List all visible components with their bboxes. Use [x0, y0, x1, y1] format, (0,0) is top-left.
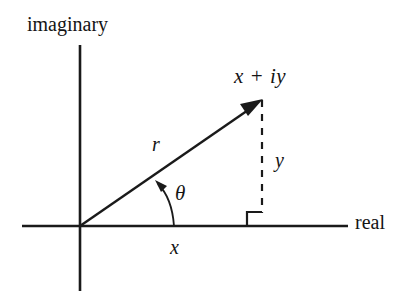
- right-angle-marker: [247, 212, 262, 225]
- point-label-x-plus-iy: x + iy: [234, 66, 286, 87]
- horizontal-leg-label-x: x: [170, 237, 179, 257]
- modulus-label-r: r: [152, 134, 160, 154]
- real-axis-label: real: [355, 212, 385, 232]
- complex-plane-figure: imaginary real x + iy r y x θ: [0, 0, 412, 293]
- vertical-leg-label-y: y: [275, 150, 284, 170]
- modulus-vector-line: [80, 106, 254, 226]
- angle-arc-arrowhead: [155, 180, 167, 192]
- angle-label-theta: θ: [175, 183, 185, 204]
- imaginary-axis-label: imaginary: [27, 14, 108, 34]
- diagram-canvas: [0, 0, 412, 293]
